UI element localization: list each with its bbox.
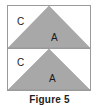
top-panel-shape-label-a: A — [51, 33, 58, 43]
triangle-shape-icon — [8, 6, 90, 48]
bottom-panel-region-label-c: C — [17, 58, 24, 68]
figure-container: C A C A Figure 5 — [0, 0, 99, 105]
top-panel: C A — [7, 5, 91, 49]
panel-stack: C A C A — [7, 5, 91, 91]
bottom-panel-shape-label-a: A — [49, 74, 56, 84]
figure-caption: Figure 5 — [0, 94, 99, 105]
bottom-panel: C A — [7, 48, 91, 91]
top-panel-region-label-c: C — [17, 17, 24, 27]
